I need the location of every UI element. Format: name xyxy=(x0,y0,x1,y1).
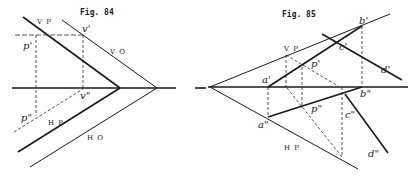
figure-85-title: Fig. 85 xyxy=(282,9,316,19)
label-a-double: a" xyxy=(258,119,269,130)
label-vp: V P xyxy=(283,45,299,53)
label-vp: V P xyxy=(36,18,52,26)
label-p-double: p" xyxy=(21,112,32,123)
label-c-prime: c' xyxy=(339,41,347,52)
label-d-prime: d' xyxy=(381,64,390,75)
ho-trace xyxy=(30,88,157,167)
label-a-prime: a' xyxy=(262,74,271,85)
line-a-prime-b-prime xyxy=(268,26,362,87)
label-ho: H O xyxy=(87,134,104,142)
figure-84-title: Fig. 84 xyxy=(80,7,114,17)
label-p-prime: p' xyxy=(23,40,32,51)
label-p-double: p" xyxy=(311,103,322,114)
label-p-prime: p' xyxy=(311,58,320,69)
label-v-prime: v' xyxy=(82,23,90,34)
line-c-double-d-double xyxy=(345,94,388,153)
vp-trace xyxy=(23,17,120,88)
label-hp: H P xyxy=(284,144,300,152)
label-vo: V O xyxy=(109,48,126,56)
label-c-double: c" xyxy=(345,109,355,120)
label-b-double: b" xyxy=(360,88,371,99)
label-d-double: d" xyxy=(368,148,379,159)
figure-84: Fig. 84 V P V O H P H O p' v' v" p" xyxy=(12,7,206,167)
label-b-prime: b' xyxy=(359,15,368,26)
hp-trace xyxy=(210,87,358,169)
label-v-double: v" xyxy=(80,90,90,101)
figure-85: Fig. 85 V P H P a' a" b' b" c' c" d' d" xyxy=(208,9,408,169)
label-hp: H P xyxy=(48,119,64,127)
diagram-canvas: Fig. 84 V P V O H P H O p' v' v" p" Fig.… xyxy=(0,0,416,179)
